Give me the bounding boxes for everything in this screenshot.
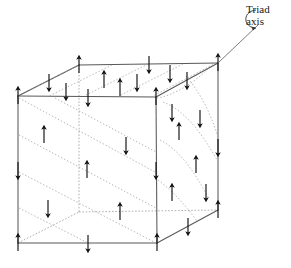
spin-structure-figure: Triad axis bbox=[0, 0, 291, 268]
cube-hidden-edges bbox=[18, 65, 218, 243]
triad-axis-label: Triad axis bbox=[246, 4, 270, 27]
triad-axis-label-line2: axis bbox=[246, 16, 270, 28]
spin-arrows bbox=[18, 55, 218, 251]
top-face-sheet-lines bbox=[30, 63, 216, 97]
triad-axis-label-line1: Triad bbox=[246, 4, 270, 16]
cube-lattice-diagram bbox=[0, 0, 291, 268]
triad-axis-leader-line bbox=[218, 25, 258, 63]
